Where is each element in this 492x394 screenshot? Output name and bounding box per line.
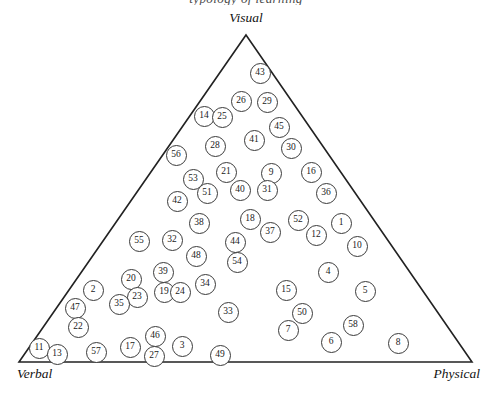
data-point-marker: 37 [260, 222, 281, 243]
data-point-marker: 35 [109, 294, 130, 315]
data-point-marker: 8 [388, 333, 409, 354]
data-point-marker: 34 [195, 274, 216, 295]
data-point-marker: 50 [292, 303, 313, 324]
data-point-marker: 13 [47, 344, 68, 365]
data-point-marker: 12 [306, 225, 327, 246]
data-point-marker: 47 [65, 298, 86, 319]
data-point-marker: 5 [355, 281, 376, 302]
data-point-marker: 49 [210, 345, 231, 366]
data-point-marker: 56 [166, 145, 187, 166]
ternary-plot: typology of learning Visual Verbal Physi… [0, 0, 492, 394]
data-point-marker: 52 [288, 210, 309, 231]
data-point-marker: 22 [68, 317, 89, 338]
data-point-marker: 29 [257, 92, 278, 113]
data-point-marker: 54 [227, 252, 248, 273]
data-point-marker: 58 [343, 315, 364, 336]
data-point-marker: 26 [231, 91, 252, 112]
data-point-marker: 36 [316, 183, 337, 204]
data-point-marker: 38 [189, 213, 210, 234]
data-point-marker: 55 [129, 231, 150, 252]
data-point-marker: 46 [145, 326, 166, 347]
data-point-marker: 33 [218, 302, 239, 323]
data-point-marker: 7 [278, 320, 299, 341]
data-point-marker: 28 [205, 136, 226, 157]
data-point-marker: 57 [86, 342, 107, 363]
data-point-marker: 42 [167, 191, 188, 212]
data-point-marker: 41 [244, 130, 265, 151]
data-point-marker: 4 [318, 262, 339, 283]
data-point-marker: 48 [186, 246, 207, 267]
data-point-marker: 23 [127, 287, 148, 308]
data-point-marker: 10 [347, 236, 368, 257]
data-point-marker: 44 [225, 232, 246, 253]
data-point-marker: 30 [281, 138, 302, 159]
data-point-marker: 15 [276, 280, 297, 301]
data-point-marker: 27 [144, 346, 165, 367]
data-point-marker: 18 [240, 209, 261, 230]
data-point-marker: 16 [301, 162, 322, 183]
data-point-marker: 21 [216, 162, 237, 183]
data-point-marker: 17 [120, 337, 141, 358]
data-point-marker: 51 [197, 183, 218, 204]
data-point-marker: 31 [257, 180, 278, 201]
data-point-marker: 2 [83, 280, 104, 301]
vertex-label-verbal: Verbal [17, 366, 52, 382]
data-point-marker: 43 [250, 63, 271, 84]
data-point-marker: 39 [153, 262, 174, 283]
vertex-label-visual: Visual [0, 10, 492, 26]
data-point-marker: 45 [269, 117, 290, 138]
data-point-marker: 32 [162, 230, 183, 251]
data-point-marker: 40 [230, 180, 251, 201]
data-point-marker: 3 [172, 336, 193, 357]
data-point-marker: 25 [212, 107, 233, 128]
data-point-marker: 24 [170, 282, 191, 303]
vertex-label-physical: Physical [434, 366, 481, 382]
data-point-marker: 6 [321, 332, 342, 353]
data-point-marker: 1 [331, 213, 352, 234]
